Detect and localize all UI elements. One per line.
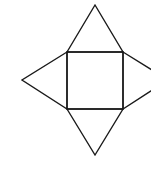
- left-triangle-face: [22, 52, 67, 109]
- bottom-triangle-face: [67, 109, 123, 155]
- top-triangle-face: [67, 5, 123, 52]
- square-base-face: [67, 52, 123, 109]
- pyramid-net-diagram: [0, 0, 151, 171]
- right-triangle-face: [123, 52, 151, 109]
- diagram-canvas: [0, 0, 151, 171]
